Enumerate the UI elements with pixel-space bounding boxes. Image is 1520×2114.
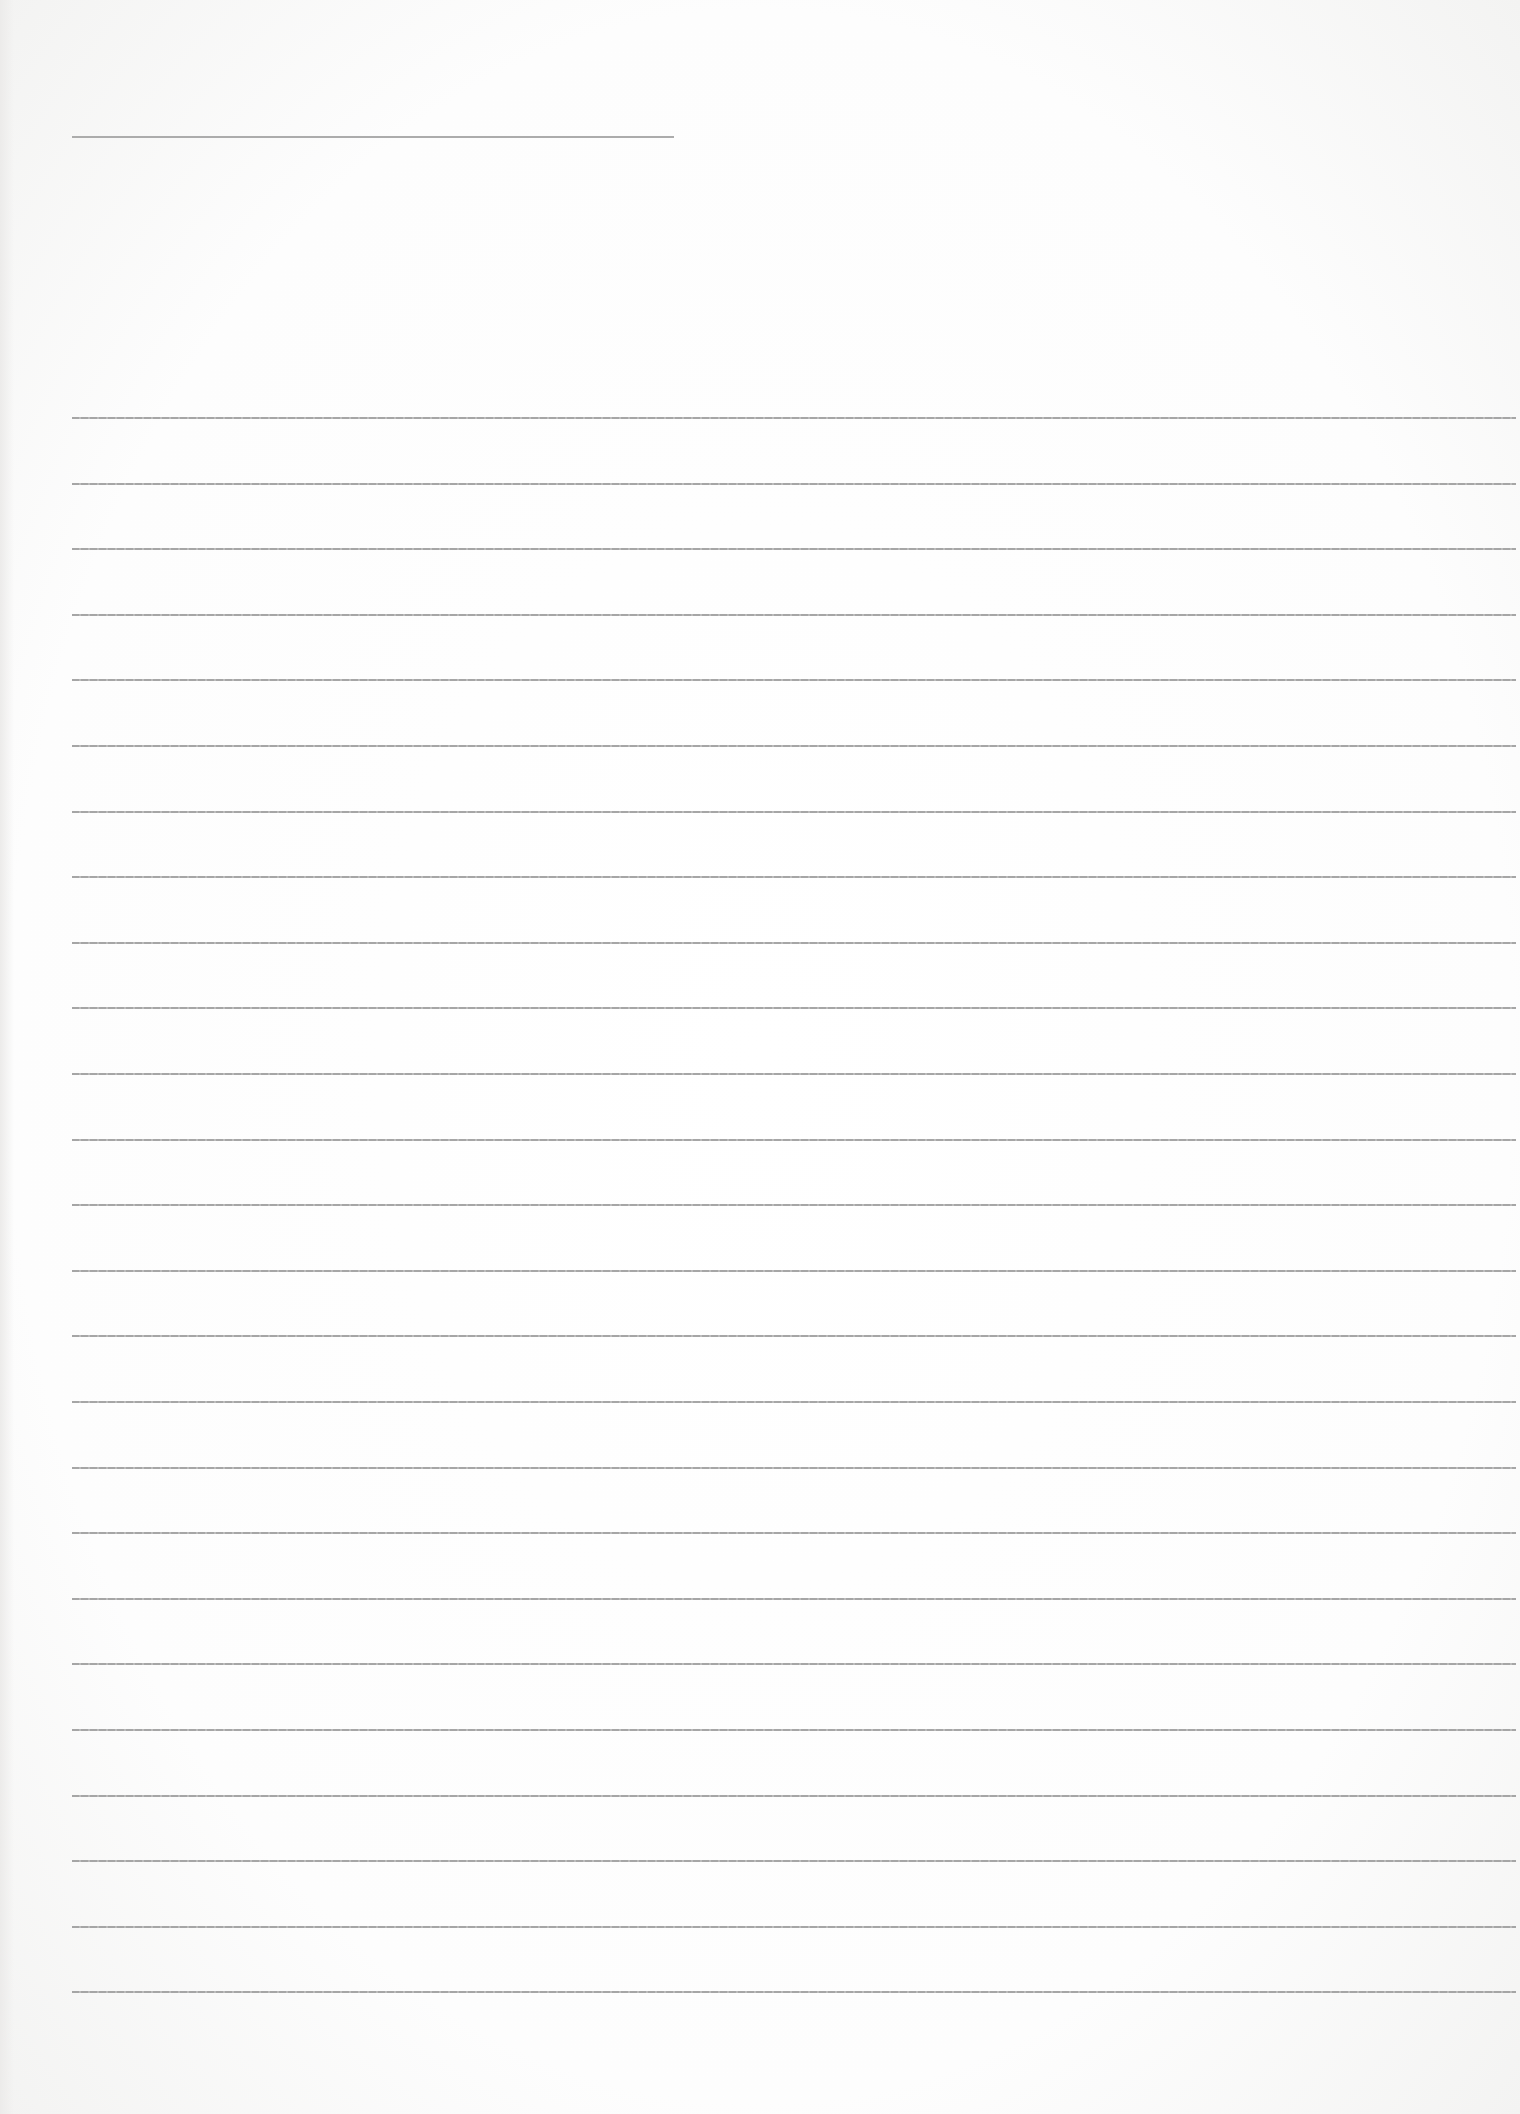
header-rule-line — [72, 136, 674, 138]
ruled-line — [72, 1795, 1516, 1797]
ruled-line — [72, 1598, 1516, 1600]
ruled-line — [72, 1139, 1516, 1141]
lined-paper-page — [0, 0, 1520, 2114]
ruled-line — [72, 548, 1516, 550]
ruled-line — [72, 1860, 1516, 1862]
ruled-line — [72, 876, 1516, 878]
ruled-line — [72, 1007, 1516, 1009]
ruled-line — [72, 1926, 1516, 1928]
ruled-line — [72, 1663, 1516, 1665]
ruled-line — [72, 614, 1516, 616]
ruled-line — [72, 1335, 1516, 1337]
ruled-line — [72, 1270, 1516, 1272]
ruled-line — [72, 483, 1516, 485]
ruled-line — [72, 1467, 1516, 1469]
ruled-line — [72, 1073, 1516, 1075]
ruled-line — [72, 417, 1516, 419]
ruled-line — [72, 679, 1516, 681]
ruled-line — [72, 745, 1516, 747]
ruled-line — [72, 1204, 1516, 1206]
ruled-line — [72, 1729, 1516, 1731]
ruled-line — [72, 811, 1516, 813]
ruled-line — [72, 1401, 1516, 1403]
ruled-line — [72, 942, 1516, 944]
ruled-line — [72, 1991, 1516, 1993]
ruled-line — [72, 1532, 1516, 1534]
